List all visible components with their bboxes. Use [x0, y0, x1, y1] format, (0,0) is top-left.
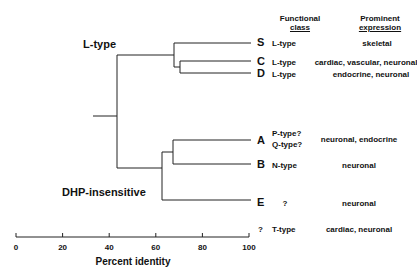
expression-t: cardiac, neuronal — [326, 225, 392, 234]
group-label-l-type: L-type — [83, 38, 116, 50]
leaf-label-b: B — [257, 158, 265, 170]
axis-tick-40: 40 — [105, 243, 114, 252]
class-e: ? — [283, 199, 288, 208]
leaf-label-a: A — [257, 134, 265, 146]
expression-e: neuronal — [342, 199, 376, 208]
leaf-label-unknown: ? — [258, 225, 263, 234]
leaf-label-d: D — [257, 67, 265, 79]
expression-b: neuronal — [342, 161, 376, 170]
axis-tick-20: 20 — [58, 243, 67, 252]
leaf-label-c: C — [257, 55, 265, 67]
axis-tick-60: 60 — [151, 243, 160, 252]
header-functional-class: Functional class — [270, 14, 330, 32]
axis-tick-100: 100 — [242, 243, 255, 252]
leaf-label-s: S — [257, 36, 264, 48]
class-b: N-type — [272, 161, 297, 170]
axis-tick-0: 0 — [14, 243, 18, 252]
class-c: L-type — [272, 58, 296, 67]
axis-label: Percent identity — [95, 256, 170, 267]
class-d: L-type — [272, 70, 296, 79]
expression-c: cardiac, vascular, neuronal — [315, 58, 417, 67]
expression-d: endocrine, neuronal — [333, 70, 409, 79]
class-s: L-type — [272, 39, 296, 48]
expression-a: neuronal, endocrine — [321, 135, 397, 144]
class-a-p: P-type? — [272, 129, 301, 138]
expression-s: skeletal — [362, 39, 391, 48]
group-label-dhp-insensitive: DHP-insensitive — [62, 186, 146, 198]
leaf-label-e: E — [257, 196, 264, 208]
class-a-q: Q-type? — [272, 140, 302, 149]
header-prominent-expression: Prominent expression — [345, 14, 415, 32]
class-t: T-type — [272, 225, 296, 234]
axis-tick-80: 80 — [198, 243, 207, 252]
